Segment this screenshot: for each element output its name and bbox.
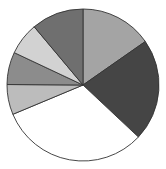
pie-chart	[0, 0, 166, 169]
